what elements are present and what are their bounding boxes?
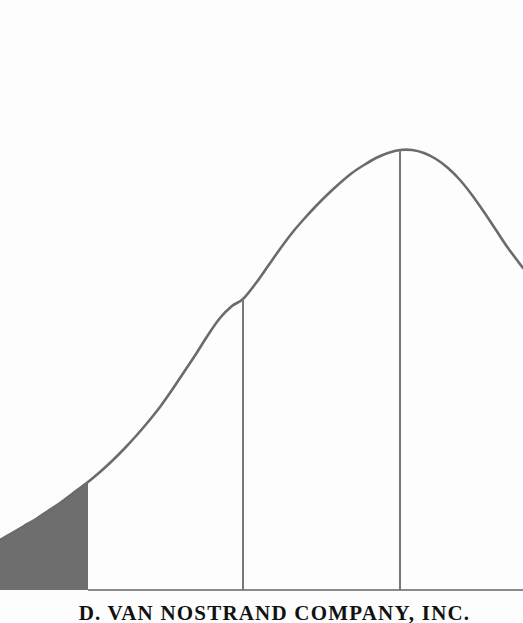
- publisher-name: D. VAN NOSTRAND COMPANY, INC.: [0, 601, 523, 623]
- book-cover-page: D. VAN NOSTRAND COMPANY, INC.: [0, 0, 523, 623]
- shaded-tail-region: [0, 482, 88, 590]
- vertical-ordinate-lines: [243, 150, 400, 590]
- distribution-curve: [0, 150, 523, 540]
- normal-distribution-figure: [0, 0, 523, 623]
